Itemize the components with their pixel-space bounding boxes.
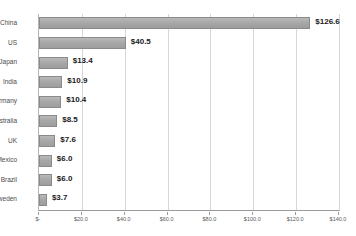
category-label: Japan bbox=[0, 55, 17, 68]
bar bbox=[39, 96, 61, 108]
x-tick-label: $- bbox=[36, 216, 41, 222]
bar-row: Germany$10.4 bbox=[39, 92, 339, 112]
bar bbox=[39, 115, 57, 127]
x-axis: $-$20.0$40.0$60.0$80.0$100.0$120.0$140.0 bbox=[38, 212, 338, 226]
category-label: UK bbox=[8, 134, 17, 147]
x-tick-mark bbox=[209, 212, 210, 215]
bar-row: US$40.5 bbox=[39, 34, 339, 54]
category-label: US bbox=[8, 36, 17, 49]
x-tick-label: $60.0 bbox=[160, 216, 174, 222]
bar bbox=[39, 135, 55, 147]
bar-value-label: $8.5 bbox=[62, 113, 78, 126]
category-label: Sweden bbox=[0, 192, 17, 205]
gridline bbox=[339, 14, 340, 210]
category-label: Australia bbox=[0, 114, 17, 127]
bar-value-label: $13.4 bbox=[73, 54, 93, 67]
category-label: Germany bbox=[0, 94, 17, 107]
bar-chart-figure: China$126.6US$40.5Japan$13.4India$10.9Ge… bbox=[0, 0, 356, 236]
bar-value-label: $6.0 bbox=[57, 172, 73, 185]
bar-value-label: $3.7 bbox=[52, 191, 68, 204]
bar bbox=[39, 37, 126, 49]
category-label: Mexico bbox=[0, 153, 17, 166]
bar-value-label: $10.9 bbox=[67, 74, 87, 87]
bar bbox=[39, 194, 47, 206]
bar bbox=[39, 155, 52, 167]
x-tick-mark bbox=[38, 212, 39, 215]
x-tick-mark bbox=[167, 212, 168, 215]
bar-row: India$10.9 bbox=[39, 73, 339, 93]
bar bbox=[39, 57, 68, 69]
bar bbox=[39, 76, 62, 88]
bar-row: China$126.6 bbox=[39, 14, 339, 34]
plot-area: China$126.6US$40.5Japan$13.4India$10.9Ge… bbox=[38, 14, 340, 211]
category-label: India bbox=[3, 75, 17, 88]
bar-row: Australia$8.5 bbox=[39, 112, 339, 132]
bar-value-label: $10.4 bbox=[66, 93, 86, 106]
bar-row: UK$7.6 bbox=[39, 132, 339, 152]
bar-row: Mexico$6.0 bbox=[39, 151, 339, 171]
bar-value-label: $7.6 bbox=[60, 133, 76, 146]
bar-row: Japan$13.4 bbox=[39, 53, 339, 73]
category-label: China bbox=[0, 16, 17, 29]
bar-rows: China$126.6US$40.5Japan$13.4India$10.9Ge… bbox=[39, 14, 339, 210]
x-tick-label: $20.0 bbox=[74, 216, 88, 222]
bar bbox=[39, 17, 310, 29]
x-tick-label: $140.0 bbox=[330, 216, 347, 222]
x-tick-label: $120.0 bbox=[287, 216, 304, 222]
x-tick-mark bbox=[295, 212, 296, 215]
bar bbox=[39, 174, 52, 186]
x-tick-label: $80.0 bbox=[203, 216, 217, 222]
bar-value-label: $6.0 bbox=[57, 152, 73, 165]
x-tick-mark bbox=[338, 212, 339, 215]
x-tick-mark bbox=[81, 212, 82, 215]
bar-row: Sweden$3.7 bbox=[39, 190, 339, 210]
bar-value-label: $126.6 bbox=[315, 15, 339, 28]
x-tick-mark bbox=[252, 212, 253, 215]
x-tick-label: $100.0 bbox=[244, 216, 261, 222]
category-label: Brazil bbox=[1, 173, 17, 186]
x-tick-label: $40.0 bbox=[117, 216, 131, 222]
bar-value-label: $40.5 bbox=[131, 35, 151, 48]
x-tick-mark bbox=[124, 212, 125, 215]
bar-row: Brazil$6.0 bbox=[39, 171, 339, 191]
